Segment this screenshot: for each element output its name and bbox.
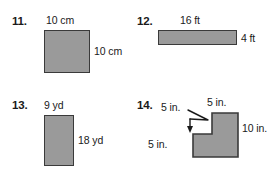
problem-11-right-label: 10 cm xyxy=(94,45,122,57)
problem-13-number: 13. xyxy=(12,99,27,111)
problem-12-top-label: 16 ft xyxy=(180,14,200,26)
problem-12-number: 12. xyxy=(137,15,152,27)
problem-14-l-shape xyxy=(192,112,240,159)
problem-14-notch-top-label: 5 in. xyxy=(161,101,180,113)
problem-14-top-right-label: 5 in. xyxy=(207,96,226,108)
problem-12-rectangle xyxy=(158,30,237,45)
problem-13-top-label: 9 yd xyxy=(44,99,63,111)
problem-13-right-label: 18 yd xyxy=(78,134,103,146)
problem-13-rectangle xyxy=(44,115,74,166)
worksheet-page: 11. 10 cm 10 cm 12. 16 ft 4 ft 13. 9 yd … xyxy=(0,0,272,184)
problem-14-bottom-left-label: 5 in. xyxy=(148,138,167,150)
problem-12-right-label: 4 ft xyxy=(241,32,255,44)
problem-14-right-label: 10 in. xyxy=(242,122,267,134)
problem-14-number: 14. xyxy=(137,99,152,111)
problem-11-number: 11. xyxy=(12,15,27,27)
problem-11-top-label: 10 cm xyxy=(46,14,74,26)
problem-11-square xyxy=(44,30,90,73)
